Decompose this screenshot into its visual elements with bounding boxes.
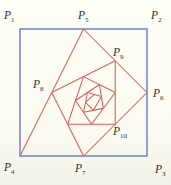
point-label-P1: P1 [3, 9, 15, 24]
midpoint-spiral [20, 29, 147, 156]
point-label-P8: P8 [32, 78, 44, 93]
figure-container: P1P2P3P4P5P6P7P8P9P10 [0, 0, 171, 185]
midpoint-spiral-diagram: P1P2P3P4P5P6P7P8P9P10 [0, 0, 171, 185]
point-label-P4: P4 [3, 161, 15, 176]
point-label-P3: P3 [154, 163, 166, 178]
point-label-P6: P6 [152, 87, 164, 102]
outer-square [20, 29, 147, 156]
point-label-P7: P7 [74, 162, 86, 177]
point-label-P5: P5 [77, 9, 89, 24]
point-label-P9: P9 [112, 46, 124, 61]
point-label-P2: P2 [150, 9, 162, 24]
point-label-P10: P10 [112, 125, 128, 140]
